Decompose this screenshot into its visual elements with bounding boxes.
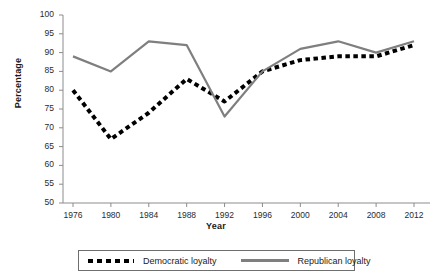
x-tick-label: 1980: [91, 210, 131, 220]
y-tick-label: 65: [24, 141, 54, 151]
y-tick-label: 100: [24, 9, 54, 19]
axes-group: [59, 15, 430, 207]
legend-label-republican: Republican loyalty: [298, 256, 371, 266]
x-tick-label: 1976: [53, 210, 93, 220]
series-line-republican: [73, 41, 414, 116]
legend-label-democratic: Democratic loyalty: [143, 256, 217, 266]
chart-container: Percentage Year 10095908580757065605550 …: [0, 0, 432, 279]
y-axis-label: Percentage: [13, 43, 23, 123]
series-line-democratic: [73, 45, 414, 139]
dotted-line-swatch-icon: [88, 259, 134, 263]
x-tick-label: 1996: [242, 210, 282, 220]
x-axis-label: Year: [0, 221, 432, 231]
y-tick-label: 90: [24, 47, 54, 57]
x-tick-label: 1992: [205, 210, 245, 220]
x-tick-label: 2008: [356, 210, 396, 220]
x-tick-label: 1984: [129, 210, 169, 220]
solid-line-swatch-icon: [241, 259, 289, 262]
y-tick-label: 95: [24, 28, 54, 38]
y-tick-label: 55: [24, 178, 54, 188]
plot-area: [0, 0, 432, 279]
chart-legend: Democratic loyalty Republican loyalty: [78, 250, 355, 271]
y-tick-label: 75: [24, 103, 54, 113]
x-tick-label: 2004: [318, 210, 358, 220]
y-tick-label: 60: [24, 159, 54, 169]
legend-item-republican: Republican loyalty: [241, 256, 371, 266]
series-lines-group: [73, 41, 414, 139]
x-tick-label: 1988: [167, 210, 207, 220]
legend-item-democratic: Democratic loyalty: [88, 256, 217, 266]
y-tick-label: 85: [24, 65, 54, 75]
y-tick-label: 70: [24, 122, 54, 132]
x-tick-label: 2000: [280, 210, 320, 220]
x-tick-label: 2012: [394, 210, 432, 220]
y-tick-label: 50: [24, 197, 54, 207]
y-tick-label: 80: [24, 84, 54, 94]
